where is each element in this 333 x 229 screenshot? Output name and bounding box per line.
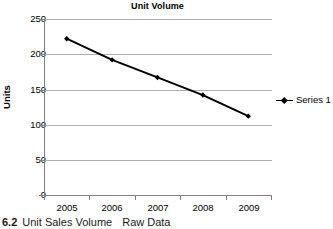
- x-tick-label-2005: 2005: [44, 202, 90, 213]
- x-tick-mark-1: [89, 195, 90, 200]
- x-tick-mark-4: [226, 195, 227, 200]
- figure-caption: 6.2Unit Sales VolumeRaw Data: [2, 215, 333, 229]
- caption-text: Unit Sales Volume: [22, 216, 112, 228]
- legend-marker-icon: [276, 96, 293, 105]
- figure-unit-volume: Unit Volume Units 250 200 150 100 50 0 2…: [0, 0, 333, 229]
- gridline-50: [45, 160, 272, 161]
- x-tick-mark-3: [180, 195, 181, 200]
- gridline-100: [45, 125, 272, 126]
- y-axis-title: Units: [2, 69, 12, 125]
- gridline-200: [45, 54, 272, 55]
- x-tick-label-2009: 2009: [226, 202, 272, 213]
- caption-subtext: Raw Data: [122, 216, 170, 228]
- x-tick-mark-end: [271, 195, 272, 200]
- x-tick-label-2006: 2006: [89, 202, 135, 213]
- gridline-250: [45, 19, 272, 20]
- chart-title: Unit Volume: [44, 1, 271, 12]
- x-tick-mark-start: [44, 195, 45, 200]
- legend-entry-label: Series 1: [296, 95, 331, 105]
- x-tick-label-2007: 2007: [135, 202, 181, 213]
- chart-legend: Series 1: [276, 95, 331, 105]
- plot-area: [44, 19, 272, 196]
- caption-number: 6.2: [2, 216, 17, 228]
- gridline-150: [45, 90, 272, 91]
- x-tick-mark-2: [135, 195, 136, 200]
- x-tick-label-2008: 2008: [180, 202, 226, 213]
